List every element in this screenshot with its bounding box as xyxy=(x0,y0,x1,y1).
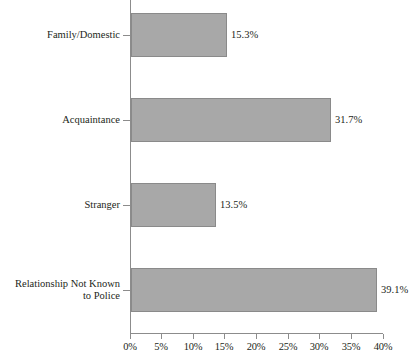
bar-value-family-domestic: 15.3% xyxy=(231,29,258,41)
bar-acquaintance xyxy=(131,98,331,142)
y-tick-mark-3 xyxy=(123,290,131,291)
category-label-stranger: Stranger xyxy=(84,199,120,211)
bar-family-domestic xyxy=(131,13,227,57)
x-tick-mark-1 xyxy=(161,334,162,339)
category-label-relationship-not-known: Relationship Not Known to Police xyxy=(15,278,120,301)
bar-relationship-not-known xyxy=(131,268,377,312)
x-tick-mark-5 xyxy=(288,334,289,339)
x-tick-mark-3 xyxy=(224,334,225,339)
x-tick-mark-0 xyxy=(130,334,131,339)
x-tick-mark-7 xyxy=(351,334,352,339)
bar-value-stranger: 13.5% xyxy=(220,199,247,211)
x-tick-mark-4 xyxy=(256,334,257,339)
y-tick-mark-1 xyxy=(123,120,131,121)
bar-value-acquaintance: 31.7% xyxy=(335,114,362,126)
bar-value-relationship-not-known: 39.1% xyxy=(381,284,408,296)
x-tick-mark-2 xyxy=(193,334,194,339)
category-label-acquaintance: Acquaintance xyxy=(62,114,120,126)
bar-chart: 0% 5% 10% 15% 20% 25% 30% 35% 40% Family… xyxy=(0,0,417,362)
category-label-family-domestic: Family/Domestic xyxy=(47,29,120,41)
y-tick-mark-0 xyxy=(123,35,131,36)
x-tick-label-8: 40% xyxy=(363,340,403,353)
y-tick-mark-2 xyxy=(123,205,131,206)
bar-stranger xyxy=(131,183,216,227)
x-tick-mark-8 xyxy=(383,334,384,339)
x-tick-mark-6 xyxy=(319,334,320,339)
